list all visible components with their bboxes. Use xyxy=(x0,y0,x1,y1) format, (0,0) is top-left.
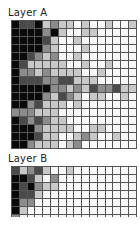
grid-cell xyxy=(12,53,20,61)
grid-cell xyxy=(43,183,51,191)
grid-cell xyxy=(113,125,121,133)
grid-cell xyxy=(28,21,36,29)
grid-cell xyxy=(90,21,98,29)
grid-cell xyxy=(129,53,137,61)
grid-cell xyxy=(82,61,90,69)
grid-cell xyxy=(106,69,114,77)
grid-cell xyxy=(129,141,137,149)
grid-cell xyxy=(82,207,90,215)
grid-cell xyxy=(59,45,67,53)
grid-cell xyxy=(82,167,90,175)
grid-cell xyxy=(28,207,36,215)
grid-cell xyxy=(129,199,137,207)
grid-cell xyxy=(59,101,67,109)
grid-cell xyxy=(12,199,20,207)
grid-cell xyxy=(82,45,90,53)
grid-cell xyxy=(51,101,59,109)
grid-cell xyxy=(12,109,20,117)
grid-cell xyxy=(28,93,36,101)
grid-cell xyxy=(28,167,36,175)
grid-cell xyxy=(98,183,106,191)
grid-cell xyxy=(98,133,106,141)
grid-cell xyxy=(12,133,20,141)
grid-cell xyxy=(43,93,51,101)
grid-cell xyxy=(12,207,20,215)
grid-cell xyxy=(74,199,82,207)
grid-cell xyxy=(74,191,82,199)
grid-cell xyxy=(98,21,106,29)
grid-cell xyxy=(121,191,129,199)
grid-cell xyxy=(98,125,106,133)
grid-cell xyxy=(12,93,20,101)
grid-cell xyxy=(113,207,121,215)
grid-cell xyxy=(90,53,98,61)
grid-cell xyxy=(35,21,43,29)
grid-cell xyxy=(12,61,20,69)
grid-cell xyxy=(59,61,67,69)
grid-cell xyxy=(98,61,106,69)
grid-cell xyxy=(35,167,43,175)
grid-cell xyxy=(12,37,20,45)
grid-cell xyxy=(106,93,114,101)
grid-cell xyxy=(28,215,36,217)
grid-cell xyxy=(74,77,82,85)
grid-cell xyxy=(98,101,106,109)
grid-cell xyxy=(28,175,36,183)
grid-cell xyxy=(98,117,106,125)
grid-cell xyxy=(67,191,75,199)
grid-cell xyxy=(121,69,129,77)
grid-cell xyxy=(106,183,114,191)
grid-cell xyxy=(12,29,20,37)
grid-cell xyxy=(74,125,82,133)
grid-cell xyxy=(35,69,43,77)
grid-cell xyxy=(82,141,90,149)
grid-cell xyxy=(98,191,106,199)
grid-cell xyxy=(51,45,59,53)
grid-cell xyxy=(20,141,28,149)
grid-cell xyxy=(82,117,90,125)
grid-cell xyxy=(12,125,20,133)
grid-cell xyxy=(59,29,67,37)
grid-cell xyxy=(106,29,114,37)
grid-cell xyxy=(113,29,121,37)
grid-cell xyxy=(43,101,51,109)
grid-cell xyxy=(98,77,106,85)
grid-cell xyxy=(35,101,43,109)
grid-cell xyxy=(98,199,106,207)
grid-cell xyxy=(20,191,28,199)
grid-cell xyxy=(129,167,137,175)
grid-cell xyxy=(20,29,28,37)
grid-cell xyxy=(106,101,114,109)
grid-cell xyxy=(129,183,137,191)
grid-cell xyxy=(28,85,36,93)
grid-cell xyxy=(28,37,36,45)
grid-cell xyxy=(106,77,114,85)
grid-cell xyxy=(82,133,90,141)
grid-cell xyxy=(90,191,98,199)
grid-cell xyxy=(51,167,59,175)
grid-cell xyxy=(35,117,43,125)
grid-cell xyxy=(121,117,129,125)
layer-a-grid xyxy=(11,20,137,149)
grid-cell xyxy=(59,215,67,217)
grid-cell xyxy=(67,167,75,175)
grid-cell xyxy=(90,37,98,45)
grid-cell xyxy=(113,175,121,183)
grid-cell xyxy=(59,175,67,183)
grid-cell xyxy=(82,125,90,133)
grid-cell xyxy=(59,109,67,117)
grid-cell xyxy=(121,21,129,29)
grid-cell xyxy=(51,207,59,215)
grid-cell xyxy=(121,85,129,93)
grid-cell xyxy=(12,85,20,93)
grid-cell xyxy=(67,175,75,183)
grid-cell xyxy=(106,37,114,45)
grid-cell xyxy=(12,117,20,125)
grid-cell xyxy=(28,199,36,207)
grid-cell xyxy=(67,93,75,101)
grid-cell xyxy=(98,85,106,93)
grid-cell xyxy=(59,125,67,133)
grid-cell xyxy=(35,199,43,207)
grid-cell xyxy=(98,45,106,53)
grid-cell xyxy=(59,199,67,207)
